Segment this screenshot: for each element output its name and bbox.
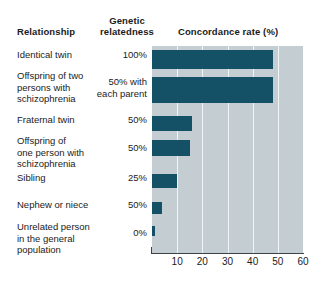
row-genetic-relatedness-line: 50% with xyxy=(88,76,147,88)
row-genetic-relatedness: 0% xyxy=(88,227,147,239)
row-label-line: population xyxy=(17,244,109,256)
row-genetic-relatedness: 50% xyxy=(88,114,147,126)
x-axis-tick-label-50: 50 xyxy=(267,256,289,267)
row-genetic-relatedness: 50% xyxy=(88,199,147,211)
bar-concordance-rate xyxy=(152,226,155,236)
row-genetic-relatedness: 25% xyxy=(88,172,147,184)
row-genetic-relatedness-line: 50% xyxy=(88,199,147,211)
column-header-concordance-rate: Concordance rate (%) xyxy=(178,27,318,38)
bar-concordance-rate xyxy=(152,116,192,131)
bar-concordance-rate xyxy=(152,202,162,214)
x-axis-tick-label-60: 60 xyxy=(292,256,314,267)
row-genetic-relatedness-line: 25% xyxy=(88,172,147,184)
gridline-50 xyxy=(278,46,279,253)
x-axis-tick-label-20: 20 xyxy=(191,256,213,267)
column-header-genetic-relatedness-line1: Genetic xyxy=(88,16,166,27)
bar-concordance-rate xyxy=(152,50,273,69)
row-genetic-relatedness-line: 0% xyxy=(88,227,147,239)
row-label-line: schizophrenia xyxy=(17,158,109,170)
bar-concordance-rate xyxy=(152,77,273,103)
bar-concordance-rate xyxy=(152,174,177,188)
row-genetic-relatedness-line: 50% xyxy=(88,114,147,126)
x-axis-tick-labels: 102030405060 xyxy=(0,256,327,272)
row-genetic-relatedness: 50% witheach parent xyxy=(88,76,147,99)
x-axis-line xyxy=(152,253,304,254)
row-genetic-relatedness: 50% xyxy=(88,142,147,154)
row-genetic-relatedness-line: 50% xyxy=(88,142,147,154)
column-header-genetic-relatedness-line2: relatedness xyxy=(88,27,166,38)
x-axis-tick-label-40: 40 xyxy=(242,256,264,267)
row-genetic-relatedness: 100% xyxy=(88,49,147,61)
concordance-rate-chart: Relationship Genetic relatedness Concord… xyxy=(0,0,327,284)
column-header-genetic-relatedness: Genetic relatedness xyxy=(88,16,166,37)
x-axis-tick-label-10: 10 xyxy=(166,256,188,267)
x-axis-tick-label-30: 30 xyxy=(217,256,239,267)
bar-concordance-rate xyxy=(152,140,190,156)
row-genetic-relatedness-line: each parent xyxy=(88,88,147,100)
x-axis-origin-tick xyxy=(151,247,152,254)
row-genetic-relatedness-line: 100% xyxy=(88,49,147,61)
